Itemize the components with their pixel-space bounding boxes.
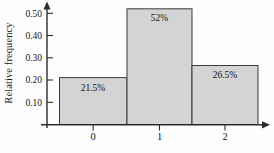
y-axis <box>43 2 50 129</box>
x-axis-ticks <box>93 125 225 131</box>
y-axis-arrowhead <box>43 2 50 10</box>
x-tick-label-1: 1 <box>145 131 175 143</box>
x-axis-arrowhead <box>262 121 270 128</box>
bars-group <box>60 9 259 125</box>
y-axis-ticks <box>47 13 53 102</box>
x-tick-label-2: 2 <box>210 131 240 143</box>
x-tick-label-0: 0 <box>78 131 108 143</box>
bar-1 <box>127 9 192 125</box>
bar-value-label-2: 26.5% <box>192 70 258 81</box>
x-axis-caption-cropped <box>0 147 274 153</box>
bar-value-label-1: 52% <box>127 13 192 24</box>
bar-value-label-0: 21.5% <box>59 83 127 94</box>
histogram-figure: Relative frequency 0.10 0.20 0.30 0.40 0… <box>0 0 274 153</box>
